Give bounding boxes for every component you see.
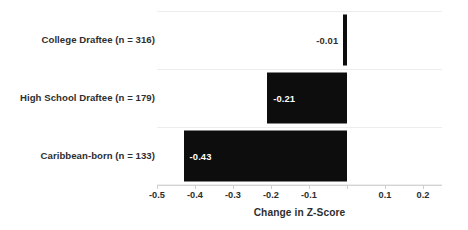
x-tick-mark: [347, 185, 348, 189]
bar-row: -0.43: [157, 127, 442, 185]
x-tick-mark: [157, 185, 158, 189]
x-tick-mark: [423, 185, 424, 189]
x-axis-title: Change in Z-Score: [157, 207, 442, 218]
category-label-caribbean-born: Caribbean-born (n = 133): [5, 151, 155, 161]
x-tick-label: -0.1: [289, 190, 329, 200]
x-tick-mark: [233, 185, 234, 189]
x-tick-label: -0.4: [175, 190, 215, 200]
bar-chart: College Draftee (n = 316) High School Dr…: [0, 0, 468, 230]
bar-value-label-high-school-draftee: -0.21: [273, 93, 295, 104]
x-tick-label: 0.1: [365, 190, 405, 200]
category-label-college-draftee: College Draftee (n = 316): [5, 35, 155, 45]
x-tick-label: -0.2: [251, 190, 291, 200]
bar-value-label-college-draftee: -0.01: [316, 35, 338, 46]
x-tick-mark: [271, 185, 272, 189]
bar-row: -0.21: [157, 69, 442, 127]
x-tick-label: -0.5: [137, 190, 177, 200]
x-tick-label: -0.3: [213, 190, 253, 200]
x-tick-mark: [309, 185, 310, 189]
bar-row: -0.01: [157, 11, 442, 69]
bar-college-draftee[interactable]: [343, 15, 347, 66]
x-tick-mark: [385, 185, 386, 189]
category-label-high-school-draftee: High School Draftee (n = 179): [5, 93, 155, 103]
bar-value-label-caribbean-born: -0.43: [190, 151, 212, 162]
x-axis-line: [157, 185, 442, 186]
x-tick-label: 0.2: [403, 190, 443, 200]
plot-area: -0.01 -0.21 -0.43: [157, 11, 442, 185]
x-tick-mark: [195, 185, 196, 189]
